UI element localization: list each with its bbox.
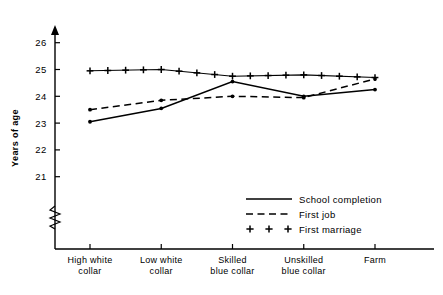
- series-point-marker: [231, 94, 235, 98]
- x-tick-label: High white: [67, 255, 112, 265]
- y-tick-label: 22: [35, 144, 47, 155]
- y-tick-label: 25: [35, 64, 47, 75]
- x-tick-label: blue collar: [282, 266, 326, 276]
- x-tick-label: collar: [78, 266, 101, 276]
- x-tick-label: Farm: [364, 255, 386, 265]
- chart-container: 212223242526Years of ageHigh whitecollar…: [0, 0, 443, 295]
- y-tick-label: 24: [35, 91, 47, 102]
- y-tick-label: 26: [35, 37, 47, 48]
- y-axis-title: Years of age: [10, 109, 20, 167]
- series-point-marker: [88, 108, 92, 112]
- y-tick-label: 21: [35, 171, 47, 182]
- series-point-marker: [88, 120, 92, 124]
- legend-label: First marriage: [299, 224, 362, 235]
- series-point-marker: [231, 80, 235, 84]
- series-point-marker: [159, 106, 163, 110]
- line-chart: 212223242526Years of ageHigh whitecollar…: [0, 0, 443, 295]
- y-axis-arrow-icon: [51, 25, 59, 35]
- legend-label: First job: [299, 209, 335, 220]
- legend-label: School completion: [299, 194, 382, 205]
- series-point-marker: [302, 96, 306, 100]
- x-tick-label: Skilled: [218, 255, 247, 265]
- series-point-marker: [373, 88, 377, 92]
- x-tick-label: blue collar: [210, 266, 254, 276]
- y-tick-label: 23: [35, 118, 47, 129]
- x-tick-label: collar: [150, 266, 173, 276]
- series-point-marker: [159, 98, 163, 102]
- x-tick-label: Low white: [140, 255, 183, 265]
- series-line-0: [90, 82, 375, 122]
- x-tick-label: Unskilled: [284, 255, 323, 265]
